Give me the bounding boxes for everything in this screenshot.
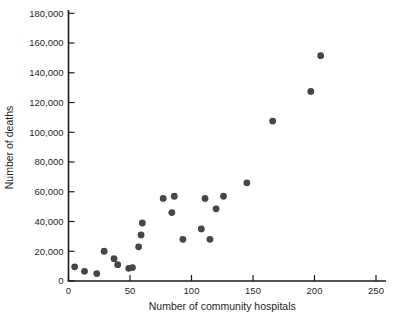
data-point xyxy=(101,248,108,255)
data-point xyxy=(114,261,121,268)
data-point xyxy=(220,193,227,200)
x-tick-label: 200 xyxy=(307,285,323,296)
data-point xyxy=(160,195,167,202)
data-point xyxy=(179,236,186,243)
y-tick-label: 40,000 xyxy=(34,216,63,227)
x-tick-label: 50 xyxy=(125,285,136,296)
y-tick-label: 160,000 xyxy=(29,37,63,48)
x-tick-label: 0 xyxy=(66,285,71,296)
y-tick-label: 0 xyxy=(58,275,63,286)
data-point xyxy=(139,220,146,227)
y-tick-label: 80,000 xyxy=(34,156,63,167)
x-axis-title: Number of community hospitals xyxy=(149,300,296,312)
y-tick-label: 100,000 xyxy=(29,127,63,138)
y-tick-label: 140,000 xyxy=(29,67,63,78)
data-point xyxy=(202,195,209,202)
plot-area: 020,00040,00060,00080,000100,000120,0001… xyxy=(0,0,399,320)
y-tick-label: 60,000 xyxy=(34,186,63,197)
data-point xyxy=(171,193,178,200)
y-tick-label: 180,000 xyxy=(29,8,63,19)
y-axis-title: Number of deaths xyxy=(3,106,15,189)
data-point xyxy=(317,52,324,59)
data-point xyxy=(168,209,175,216)
y-tick-label: 120,000 xyxy=(29,97,63,108)
data-point xyxy=(93,270,100,277)
y-tick-label: 20,000 xyxy=(34,246,63,257)
data-point xyxy=(129,264,136,271)
data-point xyxy=(198,226,205,233)
scatter-chart-figure: 020,00040,00060,00080,000100,000120,0001… xyxy=(0,0,399,320)
data-point xyxy=(243,179,250,186)
data-point xyxy=(138,231,145,238)
data-point xyxy=(269,118,276,125)
data-point xyxy=(135,243,142,250)
data-point xyxy=(207,236,214,243)
data-point xyxy=(81,268,88,275)
x-tick-label: 100 xyxy=(184,285,200,296)
x-tick-label: 150 xyxy=(245,285,261,296)
data-point xyxy=(213,205,220,212)
data-point xyxy=(71,263,78,270)
data-point xyxy=(111,255,118,262)
x-tick-label: 250 xyxy=(368,285,384,296)
data-point xyxy=(307,88,314,95)
